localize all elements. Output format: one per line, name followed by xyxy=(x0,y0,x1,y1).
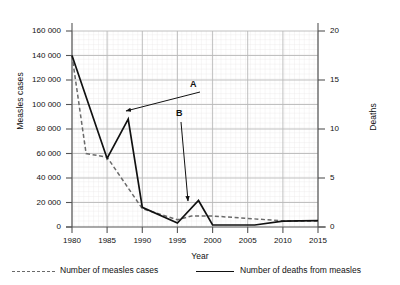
legend-label-measles-cases: Number of measles cases xyxy=(60,265,158,275)
y-tick-left-20000: 20 000 xyxy=(11,198,61,207)
y-ticks-left xyxy=(66,31,72,227)
y-tick-right-0: 0 xyxy=(330,222,360,231)
y-tick-right-10: 10 xyxy=(330,124,360,133)
measles-chart-figure: A B Measles cases Deaths Year 160 000 14… xyxy=(0,0,400,285)
y-tick-left-100000: 100 000 xyxy=(11,100,61,109)
x-tick-2010: 2010 xyxy=(263,236,303,245)
x-tick-2005: 2005 xyxy=(228,236,268,245)
y-tick-right-20: 20 xyxy=(330,26,360,35)
chart-legend: Number of measles cases Number of deaths… xyxy=(0,262,400,282)
y-tick-left-140000: 140 000 xyxy=(11,51,61,60)
legend-label-measles-deaths: Number of deaths from measles xyxy=(240,265,361,275)
y-tick-left-120000: 120 000 xyxy=(11,75,61,84)
x-tick-1985: 1985 xyxy=(87,236,127,245)
legend-swatch-measles-cases xyxy=(12,271,55,272)
y-tick-right-15: 15 xyxy=(330,75,360,84)
x-axis-title: Year xyxy=(160,251,240,261)
x-tick-2015: 2015 xyxy=(298,236,338,245)
y-tick-left-80000: 80 000 xyxy=(11,124,61,133)
annotation-label-b: B xyxy=(176,108,183,118)
y-tick-left-0: 0 xyxy=(11,222,61,231)
x-tick-1980: 1980 xyxy=(52,236,92,245)
x-tick-2000: 2000 xyxy=(193,236,233,245)
x-ticks xyxy=(72,227,318,233)
y-tick-right-5: 5 xyxy=(330,173,360,182)
y-tick-left-60000: 60 000 xyxy=(11,149,61,158)
x-tick-1995: 1995 xyxy=(157,236,197,245)
y-ticks-right xyxy=(318,31,325,227)
y-tick-left-40000: 40 000 xyxy=(11,173,61,182)
annotation-label-a: A xyxy=(190,79,197,89)
x-tick-1990: 1990 xyxy=(122,236,162,245)
y-tick-left-160000: 160 000 xyxy=(11,26,61,35)
y-axis-right-title: Deaths xyxy=(368,87,378,147)
legend-swatch-measles-deaths xyxy=(196,271,234,272)
